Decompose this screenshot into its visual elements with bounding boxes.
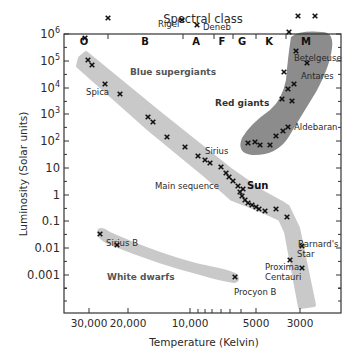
y-tick-label: 104 — [40, 80, 60, 95]
y-axis-title: Luminosity (Solar units) — [17, 112, 29, 237]
hr-diagram: Spectral class 1061051041031021010.10.01… — [0, 0, 359, 360]
y-tick-label: 0.01 — [34, 241, 60, 255]
label-betelgeuse: Betelgeuse — [294, 53, 342, 63]
label-barnards-star-line1: Barnard's — [298, 239, 339, 249]
y-tick-label: 0.1 — [42, 214, 60, 228]
label-antares: Antares — [301, 71, 334, 81]
spectral-class-g: G — [238, 36, 246, 47]
x-tick-label: 30,000 — [71, 317, 108, 329]
star-marker — [282, 70, 287, 75]
x-axis-ticks — [89, 308, 300, 313]
star-marker — [106, 16, 111, 21]
label-red-giants: Red giants — [215, 98, 269, 108]
y-tick-label: 10 — [45, 161, 60, 175]
y-tick-labels: 1061051041031021010.10.010.001 — [27, 26, 60, 282]
y-tick-label: 103 — [40, 106, 60, 121]
x-axis-title: Temperature (Kelvin) — [148, 336, 259, 348]
label-proxima-centauri-line2: Centauri — [265, 272, 301, 282]
label-rigel: Rigel — [158, 19, 179, 29]
label-main-sequence: Main sequence — [155, 181, 219, 191]
y-tick-label: 0.001 — [27, 268, 60, 282]
label-sun: Sun — [247, 180, 268, 191]
star-marker — [313, 14, 318, 19]
spectral-class-b: B — [141, 36, 149, 47]
x-tick-label: 20,000 — [110, 317, 147, 329]
label-deneb: Deneb — [203, 22, 231, 32]
label-barnards-star-line2: Star — [297, 249, 315, 259]
label-sirius-b: Sirius B — [106, 238, 138, 248]
label-proxima-centauri-line1: Proxima — [265, 262, 299, 272]
x-tick-label: 5000 — [243, 317, 270, 329]
x-tick-labels: 30,00020,00010,00050003000 — [71, 317, 314, 329]
label-sirius: Sirius — [205, 146, 229, 156]
y-tick-label: 105 — [40, 53, 60, 68]
y-tick-label: 106 — [40, 26, 60, 41]
spectral-class-a: A — [192, 36, 200, 47]
label-white-dwarfs: White dwarfs — [107, 272, 175, 282]
y-tick-label: 1 — [53, 188, 60, 202]
label-aldebaran: Aldebaran — [294, 122, 338, 132]
label-procyon-b: Procyon B — [234, 287, 276, 297]
spectral-class-k: K — [265, 36, 274, 47]
y-tick-label: 102 — [40, 133, 60, 148]
spectral-class-labels: OBAFGKM — [80, 36, 311, 47]
red-giants-region — [240, 32, 332, 155]
spectral-class-f: F — [219, 36, 226, 47]
label-blue-supergiants: Blue supergiants — [130, 67, 216, 77]
spectral-class-m: M — [301, 36, 311, 47]
x-tick-label: 3000 — [287, 317, 314, 329]
star-marker — [296, 14, 301, 19]
label-spica: Spica — [86, 87, 109, 97]
x-tick-label: 10,000 — [172, 317, 209, 329]
